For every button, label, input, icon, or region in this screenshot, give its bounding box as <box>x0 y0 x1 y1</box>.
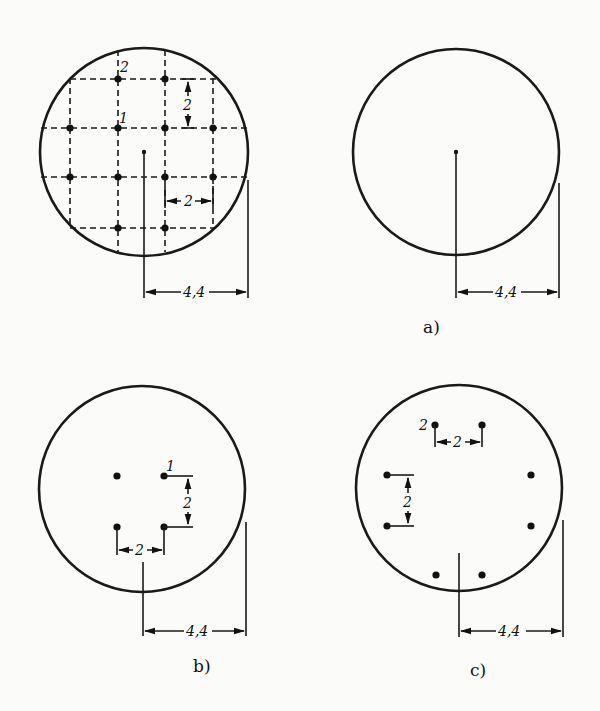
panel-c: 2 2 2 4,4 c) <box>356 385 563 680</box>
panel-caption: b) <box>193 656 211 676</box>
point-label-1: 1 <box>166 458 175 474</box>
panel-caption: c) <box>470 660 486 680</box>
panel-a: 4,4 a) <box>353 49 559 337</box>
vertical-spacing-label: 2 <box>182 97 192 113</box>
panel-caption: a) <box>423 317 440 337</box>
points <box>113 472 167 530</box>
vertical-spacing-label: 2 <box>402 494 412 510</box>
radius-label: 4,4 <box>497 623 520 639</box>
horizontal-spacing-label: 2 <box>134 542 144 558</box>
figure-canvas: 2 1 2 2 4,4 4,4 a) <box>0 0 600 711</box>
vertical-spacing-label: 2 <box>182 495 192 511</box>
radius-label: 4,4 <box>494 284 517 300</box>
point-label-1: 1 <box>119 110 128 126</box>
point-label-2: 2 <box>418 417 428 433</box>
section-circle <box>39 386 245 592</box>
panel-grid: 2 1 2 2 4,4 <box>40 48 248 300</box>
horizontal-spacing-label: 2 <box>452 434 462 450</box>
point-label-2: 2 <box>119 59 129 75</box>
radius-label: 4,4 <box>185 623 208 639</box>
panel-b: 1 2 2 4,4 b) <box>39 386 246 676</box>
horizontal-spacing-label: 2 <box>183 193 193 209</box>
radius-label: 4,4 <box>182 284 205 300</box>
